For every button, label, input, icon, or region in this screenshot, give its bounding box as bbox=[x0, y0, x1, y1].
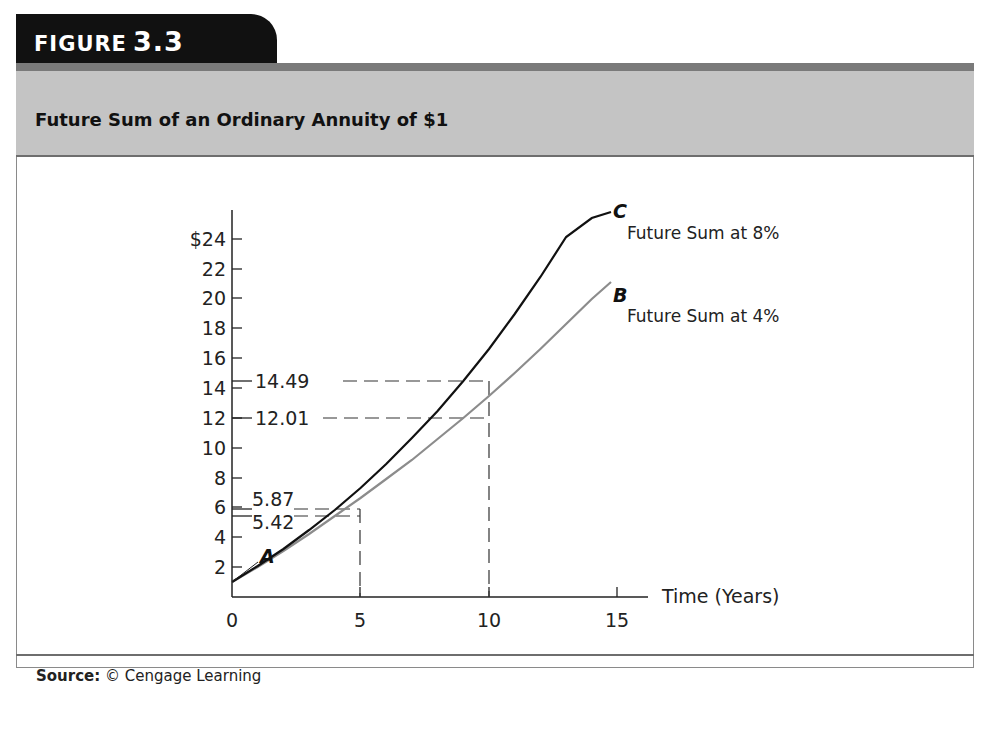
y-tick-label: 8 bbox=[214, 467, 226, 489]
y-ticks bbox=[232, 239, 242, 567]
legend-8pct: Future Sum at 8% bbox=[627, 223, 780, 243]
annotation-14-49: 14.49 bbox=[255, 370, 309, 392]
annotation-5-42: 5.42 bbox=[252, 511, 294, 533]
annotation-5-87: 5.87 bbox=[252, 488, 294, 510]
x-axis-label: Time (Years) bbox=[661, 585, 780, 607]
x-tick-labels: 0 5 10 15 bbox=[226, 609, 629, 631]
y-tick-label: 10 bbox=[202, 437, 226, 459]
y-tick-label: 12 bbox=[202, 407, 226, 429]
series-4pct-line bbox=[232, 282, 611, 582]
y-tick-label: $24 bbox=[190, 228, 226, 250]
y-tick-label: 14 bbox=[202, 377, 226, 399]
y-tick-label: 16 bbox=[202, 347, 226, 369]
point-b-label: B bbox=[613, 284, 627, 306]
source-line: Source: © Cengage Learning bbox=[36, 667, 261, 685]
guide-lines bbox=[294, 381, 489, 597]
source-label: Source: bbox=[36, 667, 100, 685]
chart-area: $24 22 20 18 16 14 12 10 8 6 4 2 0 5 10 … bbox=[0, 0, 997, 729]
annotation-12-01: 12.01 bbox=[255, 407, 309, 429]
source-divider bbox=[16, 654, 974, 656]
point-a-label: A bbox=[258, 545, 275, 567]
y-tick-label: 6 bbox=[214, 496, 226, 518]
x-tick-label: 0 bbox=[226, 609, 238, 631]
x-tick-label: 15 bbox=[605, 609, 629, 631]
y-tick-label: 22 bbox=[202, 258, 226, 280]
y-tick-label: 20 bbox=[202, 287, 226, 309]
y-tick-label: 18 bbox=[202, 317, 226, 339]
x-tick-label: 10 bbox=[477, 609, 501, 631]
x-tick-label: 5 bbox=[354, 609, 366, 631]
legend-4pct: Future Sum at 4% bbox=[627, 306, 780, 326]
source-text: © Cengage Learning bbox=[105, 667, 261, 685]
y-tick-label: 2 bbox=[214, 556, 226, 578]
y-tick-labels: $24 22 20 18 16 14 12 10 8 6 4 2 bbox=[190, 228, 226, 578]
point-a-leader bbox=[232, 562, 258, 582]
point-c-label: C bbox=[613, 200, 627, 222]
y-tick-label: 4 bbox=[214, 526, 226, 548]
